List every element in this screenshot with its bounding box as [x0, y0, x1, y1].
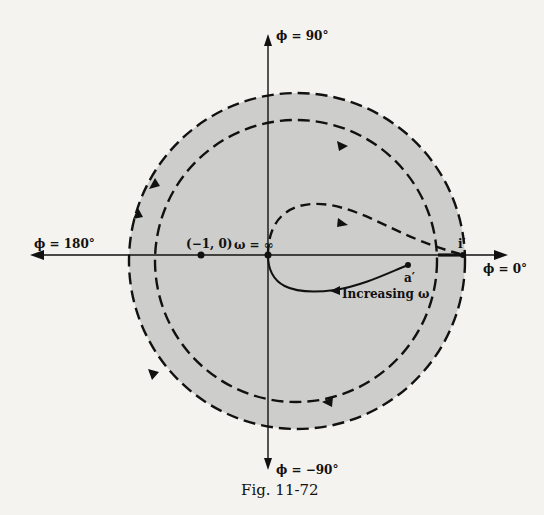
bottom-axis-label: ϕ = −90° — [276, 463, 338, 477]
up-arrow-icon — [264, 34, 272, 46]
figure-caption: Fig. 11-72 — [241, 481, 319, 499]
critical-point-label: (−1, 0) — [186, 237, 232, 251]
increasing-omega-label: Increasing ω — [342, 287, 429, 301]
top-axis-label: ϕ = 90° — [276, 29, 328, 43]
left-axis-label: ϕ = 180° — [34, 237, 95, 251]
nyquist-diagram: ϕ = 90° ϕ = −90° ϕ = 180° ϕ = 0° (−1, 0)… — [0, 0, 544, 515]
critical-point-dot — [198, 252, 205, 259]
i-prime-dot — [460, 252, 466, 258]
origin-dot — [265, 252, 272, 259]
down-arrow-icon — [264, 458, 272, 470]
left-arrow-icon — [30, 250, 44, 260]
shaded-region — [129, 93, 465, 429]
origin-label: ω = ∞ — [234, 238, 274, 252]
i-prime-label: i′ — [458, 237, 466, 251]
a-prime-label: a′ — [404, 271, 415, 285]
right-axis-label: ϕ = 0° — [483, 262, 527, 276]
a-prime-dot — [405, 262, 411, 268]
right-arrow-icon — [494, 250, 508, 260]
